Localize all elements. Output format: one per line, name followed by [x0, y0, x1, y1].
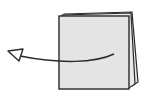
- arrow-head-icon: [8, 49, 23, 61]
- page-stack: [59, 12, 138, 89]
- front-page: [59, 16, 129, 89]
- folded-pages-diagram: [0, 0, 147, 100]
